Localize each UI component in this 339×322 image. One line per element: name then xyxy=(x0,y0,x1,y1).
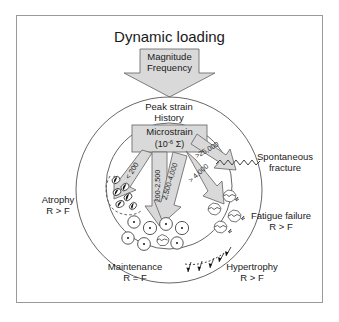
osteon xyxy=(122,232,134,244)
osteon xyxy=(160,218,173,231)
input-arrow-line1: Magnitude xyxy=(147,51,191,62)
outcome-hypertrophy-relation: R > F xyxy=(240,272,264,283)
outcome-fatigue-name: Fatigue failure xyxy=(251,210,311,221)
outcome-hypertrophy-name: Hypertrophy xyxy=(226,261,278,272)
input-arrow-line2: Frequency xyxy=(147,62,192,73)
resorption-cavity xyxy=(115,199,125,208)
microstrain-label: Microstrain xyxy=(146,126,192,137)
microstrain-symbol: Σ) xyxy=(173,139,184,149)
apposition-group xyxy=(185,247,231,272)
microcrack xyxy=(214,221,227,233)
apposition-arrow xyxy=(225,247,231,256)
osteon xyxy=(171,237,183,249)
outcome-maintenance-relation: R = F xyxy=(123,272,147,283)
peak-strain-line1: Peak strain xyxy=(145,101,193,112)
outcome-fracture-line1: Spontaneous xyxy=(257,151,313,162)
outcome-maintenance-name: Maintenance xyxy=(108,261,162,272)
microstrain-base: (10 xyxy=(155,139,168,149)
bone-adaptation-diagram: Dynamic loading Magnitude Frequency Peak… xyxy=(0,0,339,322)
apposition-arrow xyxy=(197,261,202,271)
outcome-fracture-line2: fracture xyxy=(269,162,301,173)
osteon xyxy=(175,221,188,234)
resorption-cavity xyxy=(128,201,138,211)
outcome-atrophy-name: Atrophy xyxy=(42,194,75,205)
microcrack xyxy=(208,203,221,215)
osteon xyxy=(128,216,140,228)
intact-osteons-group xyxy=(122,216,189,251)
crack-tick xyxy=(241,216,245,220)
diagram-title: Dynamic loading xyxy=(114,28,225,45)
apposition-arrow xyxy=(218,253,224,262)
microcrack xyxy=(228,210,241,222)
osteon xyxy=(138,238,151,251)
outcome-atrophy-relation: R > F xyxy=(46,205,70,216)
microcrack xyxy=(223,190,236,202)
apposition-arrow xyxy=(209,258,214,268)
peak-strain-line2: History xyxy=(154,112,184,123)
crack-tick xyxy=(228,229,232,233)
osteon xyxy=(143,221,156,234)
apposition-arrow xyxy=(186,262,191,272)
osteon-microcrack xyxy=(157,235,170,246)
diagram-canvas: Dynamic loading Magnitude Frequency Peak… xyxy=(0,0,339,322)
outcome-fatigue-relation: R > F xyxy=(269,221,293,232)
